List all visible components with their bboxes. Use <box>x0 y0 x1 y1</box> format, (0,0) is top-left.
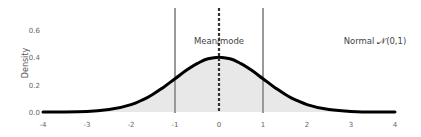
y-axis-label: Density <box>21 48 30 79</box>
x-axis: -4 -3 -2 -1 0 1 2 3 4 <box>40 121 398 129</box>
x-tick-label: -3 <box>84 121 91 129</box>
y-axis: 0.6 0.4 0.2 0.0 Density <box>21 27 41 118</box>
y-tick-label: 0.6 <box>29 27 41 35</box>
normal-distribution-chart: 0.6 0.4 0.2 0.0 Density -4 -3 -2 -1 0 1 … <box>0 0 421 137</box>
x-tick-label: 3 <box>349 121 353 129</box>
y-tick-label: 0.2 <box>29 82 40 90</box>
x-tick-label: 4 <box>393 121 398 129</box>
y-tick-label: 0.0 <box>29 109 40 117</box>
distribution-name-annotation: Normal 𝒩(0,1) <box>344 36 407 46</box>
mean-mode-annotation: Mean/mode <box>194 36 244 46</box>
x-tick-label: 1 <box>261 121 265 129</box>
x-tick-label: -2 <box>128 121 135 129</box>
y-tick-label: 0.4 <box>29 54 41 62</box>
x-tick-label: -1 <box>172 121 179 129</box>
x-tick-label: -4 <box>40 121 48 129</box>
x-tick-label: 2 <box>305 121 309 129</box>
x-tick-label: 0 <box>217 121 221 129</box>
